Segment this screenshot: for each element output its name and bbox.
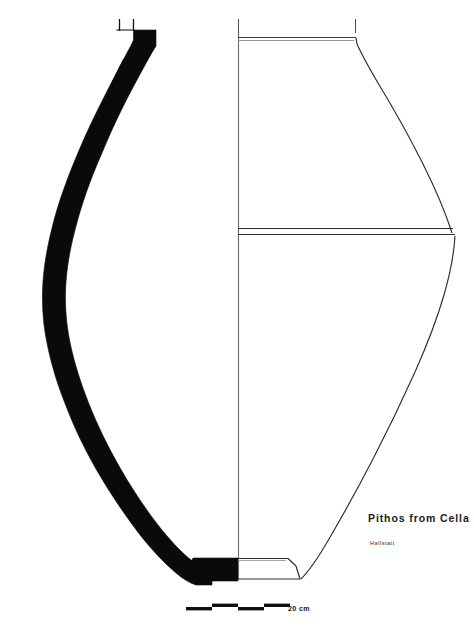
caption-block: Pithos from Cella Hallstatt	[368, 512, 472, 547]
scale-segment-1	[186, 607, 212, 610]
scale-bar-graphic	[186, 598, 290, 616]
scale-bar-label: 20 cm	[288, 605, 310, 612]
figure-title: Pithos from Cella	[368, 512, 472, 525]
scale-segment-2	[212, 604, 238, 607]
scale-segment-4	[264, 604, 290, 607]
scale-bar: 20 cm	[186, 598, 326, 620]
figure-root: Pithos from Cella Hallstatt 20 cm	[0, 0, 474, 636]
section-profile-foot	[189, 558, 238, 581]
scale-segment-3	[238, 607, 264, 610]
figure-subtitle: Hallstatt	[370, 539, 472, 547]
